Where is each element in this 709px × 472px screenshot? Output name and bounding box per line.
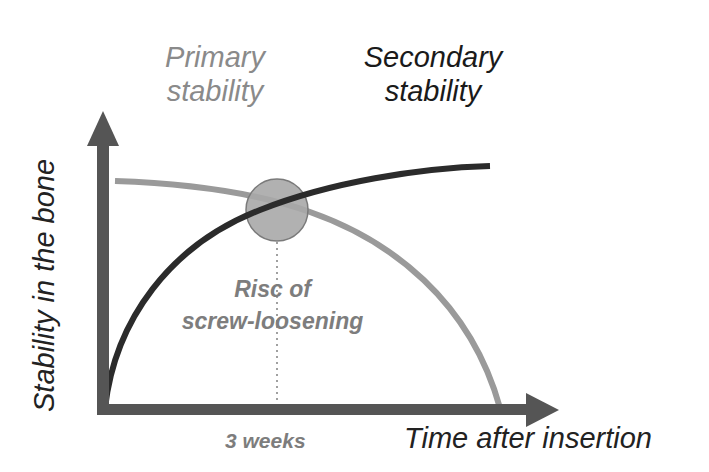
x-tick-3-weeks: 3 weeks <box>225 430 306 451</box>
y-axis-line <box>97 140 109 413</box>
risk-label-line1: Risc of <box>160 278 385 301</box>
risk-annotation: Risc of screw-loosening <box>160 278 385 333</box>
primary-label-line2: stability <box>150 77 280 106</box>
secondary-label-line1: Secondary <box>348 43 518 72</box>
risk-label-line2: screw-loosening <box>160 310 385 333</box>
secondary-label-line2: stability <box>348 77 518 106</box>
y-axis-label: Stability in the bone <box>30 159 59 412</box>
stability-diagram: Primary stability Secondary stability Ri… <box>0 0 709 472</box>
secondary-stability-label: Secondary stability <box>348 43 518 106</box>
y-axis-arrowhead <box>87 111 119 146</box>
primary-stability-label: Primary stability <box>150 43 280 106</box>
x-axis-label: Time after insertion <box>404 424 652 453</box>
x-axis-line <box>97 404 529 415</box>
primary-label-line1: Primary <box>150 43 280 72</box>
